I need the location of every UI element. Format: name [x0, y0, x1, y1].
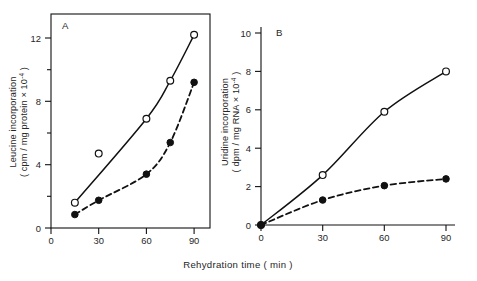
panel-a-ytick-marks: [45, 38, 51, 228]
panel-b: Uridine incorporation ( dpm / mg RNA × 1…: [220, 27, 455, 243]
panel-a-ylabel-line2-pre: ( cpm / mg protein × 10: [19, 79, 29, 177]
panel-b-xtick-label-0: 0: [258, 232, 263, 243]
panel-b-filled-circle-point-90: [443, 176, 450, 183]
panel-b-filled-circle-line: [261, 179, 446, 225]
panel-a-filled-circle-point-30: [95, 197, 102, 204]
panel-b-xtick-label-60: 60: [379, 232, 389, 243]
panel-a-open-circle-point-90: [191, 31, 198, 38]
panel-b-ytick-label-6: 6: [246, 104, 251, 115]
panel-b-ylabel-line2-pre: ( dpm / mg RNA × 10: [231, 84, 241, 173]
panel-a-filled-circle-point-90: [191, 79, 198, 86]
panel-a-open-circle-line: [75, 35, 194, 203]
panel-b-xtick-marks: [261, 225, 446, 231]
panel-b-filled-circle-point-0: [258, 222, 265, 229]
panel-b-axis-lines: [261, 27, 455, 225]
panel-b-xtick-label-90: 90: [441, 232, 451, 243]
panel-b-xtick-labels: 0 30 60 90: [258, 232, 451, 243]
panel-b-ytick-marks: [255, 33, 261, 225]
panel-b-open-circle-line: [261, 71, 446, 225]
panel-a-xtick-label-0: 0: [48, 235, 53, 246]
panel-b-data-layer: [258, 68, 450, 228]
figure-root: Leucine incorporation ( cpm / mg protein…: [0, 0, 477, 281]
panel-a-open-circle-point-30: [95, 150, 102, 157]
panel-a-ytick-label-4: 4: [36, 159, 41, 170]
panel-b-ytick-label-10: 10: [241, 28, 251, 39]
panel-a-ytick-labels: 0 4 8 12: [31, 33, 41, 234]
panel-a-filled-circle-point-75: [167, 139, 174, 146]
panel-a-xtick-labels: 0 30 60 90: [48, 235, 199, 246]
panel-b-ylabel-line1: Uridine incorporation: [220, 78, 230, 166]
panel-a-xtick-label-60: 60: [141, 235, 151, 246]
panel-b-filled-circle-point-60: [381, 182, 388, 189]
panel-a-open-circle-point-15: [71, 199, 78, 206]
panel-b-open-circle-point-90: [443, 68, 450, 75]
panel-a-xtick-label-90: 90: [189, 235, 199, 246]
panel-b-open-circle-point-60: [381, 108, 388, 115]
panel-a-plot-frame: [51, 14, 210, 228]
panel-b-ytick-label-4: 4: [246, 143, 251, 154]
panel-b-ytick-label-0: 0: [246, 220, 251, 231]
xaxis-caption: Rehydration time ( min ): [183, 259, 293, 270]
panel-a-open-circle-point-75: [167, 77, 174, 84]
panel-a-ylabel-line2: ( cpm / mg protein × 10-4 ): [18, 67, 29, 177]
panel-b-open-circle-point-30: [319, 172, 326, 179]
panel-b-ylabel-line2-post: ): [231, 72, 241, 78]
panel-b-ylabel-line2: ( dpm / mg RNA × 10-4 ): [230, 72, 241, 173]
panel-a-xtick-label-30: 30: [93, 235, 103, 246]
panel-a-letter: A: [62, 20, 69, 31]
panel-a-ytick-label-8: 8: [36, 96, 41, 107]
panel-b-filled-circle-point-30: [319, 197, 326, 204]
panel-b-letter: B: [276, 27, 282, 38]
panel-a-ytick-label-12: 12: [31, 33, 41, 44]
panel-a-ytick-label-0: 0: [36, 223, 41, 234]
panel-a-filled-circle-line: [75, 82, 194, 214]
panel-a-xtick-marks: [51, 228, 194, 234]
panel-b-xtick-label-30: 30: [317, 232, 327, 243]
panel-a-data-layer: [71, 31, 197, 217]
panel-a: Leucine incorporation ( cpm / mg protein…: [8, 14, 210, 246]
panel-a-ylabel-line2-post: ): [19, 67, 29, 73]
panel-a-filled-circle-point-60: [143, 171, 150, 178]
panel-b-ytick-label-8: 8: [246, 66, 251, 77]
panel-a-filled-circle-point-15: [72, 211, 79, 218]
panel-a-ylabel-line1: Leucine incorporation: [8, 76, 18, 167]
panel-b-ytick-labels: 0 2 4 6 8 10: [241, 28, 251, 231]
panel-b-ytick-label-2: 2: [246, 181, 251, 192]
panel-a-open-circle-point-60: [143, 115, 150, 122]
